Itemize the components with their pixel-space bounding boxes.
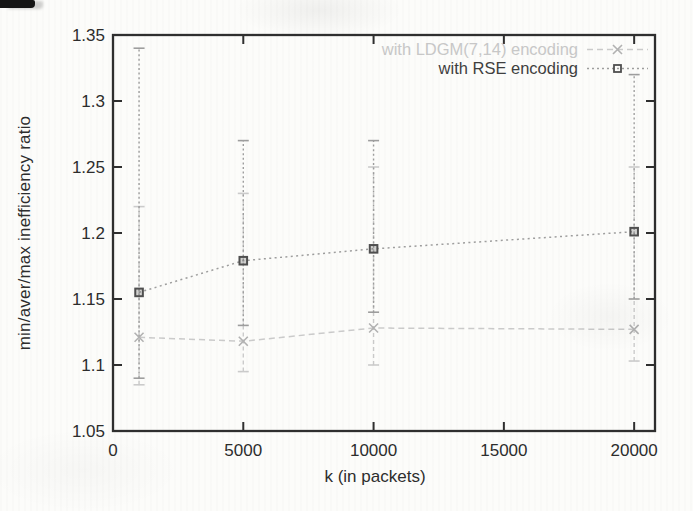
- x-axis-tick-label: 10000: [350, 441, 397, 460]
- figure: 1.051.11.151.21.251.31.35050001000015000…: [0, 0, 693, 511]
- legend-item-rse: with RSE encoding: [382, 59, 649, 78]
- plot-frame: [113, 35, 655, 431]
- rse-line-sample: [586, 62, 649, 75]
- y-axis-tick-label: 1.35: [72, 26, 105, 45]
- y-axis-title: min/aver/max inefficiency ratio: [15, 116, 35, 351]
- y-axis-tick-label: 1.1: [81, 356, 105, 375]
- ldgm-series-line: [139, 328, 634, 341]
- square-data-marker: [370, 245, 378, 253]
- legend-label-ldgm: with LDGM(7,14) encoding: [382, 40, 578, 59]
- x-axis-tick-label: 5000: [224, 441, 262, 460]
- square-data-marker: [239, 257, 247, 265]
- x-axis-tick-label: 15000: [480, 441, 527, 460]
- x-axis-tick-label: 0: [108, 441, 117, 460]
- square-data-marker: [630, 228, 638, 236]
- ldgm-line-sample: [586, 43, 649, 56]
- y-axis-tick-label: 1.05: [72, 422, 105, 441]
- y-axis-tick-label: 1.2: [81, 224, 105, 243]
- square-data-marker: [135, 289, 143, 297]
- x-axis-title: k (in packets): [324, 467, 425, 487]
- legend: with LDGM(7,14) encoding with RSE encodi…: [382, 40, 649, 78]
- legend-label-rse: with RSE encoding: [439, 59, 578, 78]
- y-axis-tick-label: 1.15: [72, 290, 105, 309]
- y-axis-tick-label: 1.25: [72, 158, 105, 177]
- rse-series-line: [139, 232, 634, 293]
- y-axis-tick-label: 1.3: [81, 92, 105, 111]
- legend-item-ldgm: with LDGM(7,14) encoding: [382, 40, 649, 59]
- x-axis-tick-label: 20000: [611, 441, 658, 460]
